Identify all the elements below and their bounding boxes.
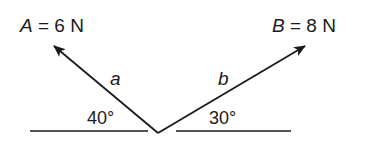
vector-b-magnitude-label: B = 8 N [272,15,336,36]
vector-diagram: A = 6 N B = 8 N a b 40° 30° [0,0,370,148]
vector-a-magnitude-label: A = 6 N [19,15,84,36]
angle-b-label: 30° [209,108,236,128]
angle-a-label: 40° [87,108,114,128]
vector-b-side-label: b [218,68,229,89]
vector-a-side-label: a [110,68,121,89]
